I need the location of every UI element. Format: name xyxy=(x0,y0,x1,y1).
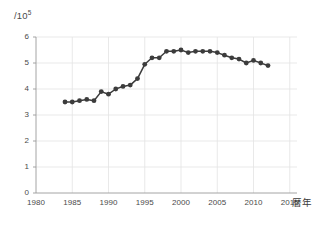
data-point-marker xyxy=(99,89,104,94)
data-point-marker xyxy=(251,58,256,63)
data-point-marker xyxy=(70,100,75,105)
data-point-marker xyxy=(266,63,271,68)
data-point-marker xyxy=(215,50,220,55)
data-point-marker xyxy=(157,55,162,60)
data-point-marker xyxy=(193,49,198,54)
data-point-marker xyxy=(186,50,191,55)
data-point-marker xyxy=(150,55,155,60)
x-axis-tick-label: 2010 xyxy=(239,198,269,207)
data-point-marker xyxy=(244,61,249,66)
y-axis-tick-label: 6 xyxy=(15,32,29,41)
x-axis-tick-label: 1995 xyxy=(130,198,160,207)
data-point-marker xyxy=(258,61,263,66)
y-axis-tick-label: 0 xyxy=(15,188,29,197)
data-point-marker xyxy=(92,98,97,103)
data-point-marker xyxy=(77,98,82,103)
x-axis-tick-label: 2005 xyxy=(202,198,232,207)
data-point-marker xyxy=(208,49,213,54)
x-axis-tick-label: 1980 xyxy=(21,198,51,207)
data-point-marker xyxy=(106,92,111,97)
data-point-marker xyxy=(179,48,184,53)
data-point-marker xyxy=(84,97,89,102)
y-axis-tick-label: 5 xyxy=(15,58,29,67)
data-point-marker xyxy=(164,49,169,54)
data-point-marker xyxy=(237,57,242,62)
data-point-marker xyxy=(229,55,234,60)
data-series xyxy=(63,48,271,105)
data-point-marker xyxy=(128,83,133,88)
data-point-marker xyxy=(142,62,147,67)
data-point-marker xyxy=(63,100,68,105)
y-axis-tick-label: 1 xyxy=(15,162,29,171)
data-point-marker xyxy=(121,84,126,89)
data-point-marker xyxy=(222,53,227,58)
data-point-marker xyxy=(171,49,176,54)
data-point-marker xyxy=(113,87,118,92)
x-axis-tick-label: 1990 xyxy=(94,198,124,207)
grid-lines xyxy=(36,37,297,193)
x-axis-tick-label: 2000 xyxy=(166,198,196,207)
y-axis-tick-label: 3 xyxy=(15,110,29,119)
x-axis-tick-label: 1985 xyxy=(57,198,87,207)
y-axis-tick-label: 4 xyxy=(15,84,29,93)
plot-area xyxy=(0,0,327,229)
y-axis-tick-label: 2 xyxy=(15,136,29,145)
data-point-marker xyxy=(135,76,140,81)
data-point-marker xyxy=(200,49,205,54)
x-axis-title: 暦年 xyxy=(292,195,313,209)
chart-container: /105 0123456 198019851990199520002005201… xyxy=(0,0,327,229)
